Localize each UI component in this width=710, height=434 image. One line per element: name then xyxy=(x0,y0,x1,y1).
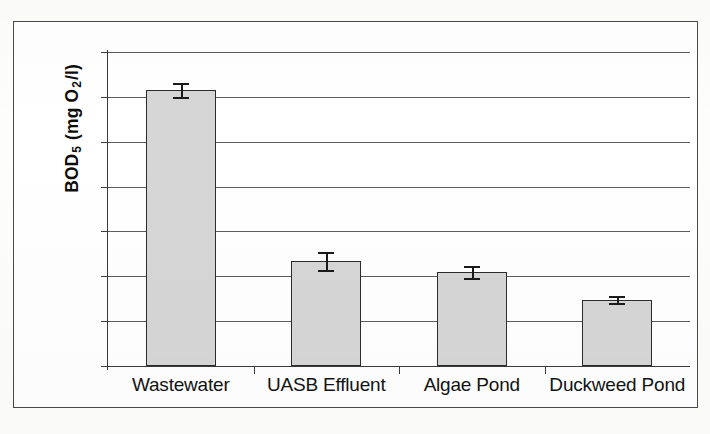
bar-algae-pond xyxy=(437,272,507,366)
x-axis-label-uasb-effluent: UASB Effluent xyxy=(254,374,400,396)
x-tick-mark-2 xyxy=(399,366,400,374)
x-tick-mark-3 xyxy=(545,366,546,374)
y-axis-title-suffix: /l) xyxy=(62,64,82,80)
bar-wastewater xyxy=(146,90,216,366)
y-axis-title-sub-2: 2 xyxy=(70,80,84,89)
y-tick-mark-350 xyxy=(101,52,108,53)
y-tick-mark-300 xyxy=(101,97,108,98)
y-axis-title-sub-5: 5 xyxy=(70,145,84,154)
gridline-350 xyxy=(108,52,690,53)
y-tick-mark-250 xyxy=(101,142,108,143)
y-axis-title: BOD5 (mg O2/l) xyxy=(62,14,83,244)
y-axis-title-mid: (mg O xyxy=(62,89,82,145)
error-bar-wastewater xyxy=(181,83,183,97)
chart-figure: BOD5 (mg O2/l) 050100150200250300350 Was… xyxy=(0,0,710,434)
error-cap-lower-uasb-effluent xyxy=(318,270,334,272)
y-tick-mark-0 xyxy=(101,366,108,367)
error-cap-upper-duckweed-pond xyxy=(609,296,625,298)
bar-duckweed-pond xyxy=(582,300,652,366)
y-tick-mark-200 xyxy=(101,187,108,188)
error-cap-upper-algae-pond xyxy=(464,266,480,268)
error-cap-lower-algae-pond xyxy=(464,278,480,280)
y-tick-mark-100 xyxy=(101,276,108,277)
x-axis-label-algae-pond: Algae Pond xyxy=(399,374,545,396)
plot-area xyxy=(108,52,690,366)
error-cap-upper-wastewater xyxy=(173,83,189,85)
y-tick-mark-150 xyxy=(101,231,108,232)
error-cap-upper-uasb-effluent xyxy=(318,252,334,254)
y-axis-title-prefix: BOD xyxy=(62,154,82,193)
error-bar-uasb-effluent xyxy=(326,252,328,270)
x-axis-label-wastewater: Wastewater xyxy=(108,374,254,396)
y-tick-mark-50 xyxy=(101,321,108,322)
bar-uasb-effluent xyxy=(291,261,361,366)
x-axis-label-duckweed-pond: Duckweed Pond xyxy=(545,374,691,396)
error-cap-lower-duckweed-pond xyxy=(609,303,625,305)
error-cap-lower-wastewater xyxy=(173,97,189,99)
x-tick-mark-1 xyxy=(254,366,255,374)
